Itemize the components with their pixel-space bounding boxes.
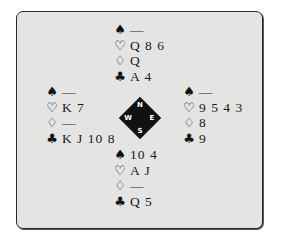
spade-icon: ♠	[183, 84, 196, 100]
west-hearts-row: ♡ K 7	[46, 100, 115, 116]
heart-icon: ♡	[46, 100, 59, 116]
north-clubs: A 4	[130, 69, 152, 85]
club-icon: ♣	[46, 131, 59, 147]
hand-south: ♠ 10 4 ♡ A J ♢ — ♣ Q 5	[114, 147, 158, 209]
heart-icon: ♡	[183, 100, 196, 116]
west-spades: —	[62, 84, 77, 100]
diamond-icon: ♢	[114, 53, 127, 69]
south-clubs-row: ♣ Q 5	[114, 194, 158, 210]
south-diamonds-row: ♢ —	[114, 178, 158, 194]
west-clubs-row: ♣ K J 10 8	[46, 131, 115, 147]
south-diamonds: —	[130, 178, 145, 194]
spade-icon: ♠	[46, 84, 59, 100]
hand-east: ♠ — ♡ 9 5 4 3 ♢ 8 ♣ 9	[183, 84, 243, 146]
north-spades-row: ♠ —	[114, 22, 165, 38]
east-spades: —	[199, 84, 214, 100]
compass-east-label: E	[147, 114, 157, 122]
west-hearts: K 7	[62, 100, 85, 116]
compass-rose: N W E S	[119, 97, 161, 139]
south-spades-row: ♠ 10 4	[114, 147, 158, 163]
west-diamonds-row: ♢ —	[46, 115, 115, 131]
east-clubs-row: ♣ 9	[183, 131, 243, 147]
diamond-icon: ♢	[183, 115, 196, 131]
west-diamonds: —	[62, 115, 77, 131]
north-spades: —	[130, 22, 145, 38]
compass-west-label: W	[123, 114, 133, 122]
east-diamonds-row: ♢ 8	[183, 115, 243, 131]
club-icon: ♣	[114, 194, 127, 210]
south-spades: 10 4	[130, 147, 158, 163]
hand-north: ♠ — ♡ Q 8 6 ♢ Q ♣ A 4	[114, 22, 165, 84]
east-diamonds: 8	[199, 115, 207, 131]
south-hearts: A J	[130, 163, 151, 179]
heart-icon: ♡	[114, 38, 127, 54]
west-spades-row: ♠ —	[46, 84, 115, 100]
compass-south-label: S	[135, 127, 145, 135]
south-hearts-row: ♡ A J	[114, 163, 158, 179]
north-diamonds-row: ♢ Q	[114, 53, 165, 69]
club-icon: ♣	[183, 131, 196, 147]
north-hearts: Q 8 6	[130, 38, 165, 54]
east-hearts-row: ♡ 9 5 4 3	[183, 100, 243, 116]
south-clubs: Q 5	[130, 194, 153, 210]
east-spades-row: ♠ —	[183, 84, 243, 100]
heart-icon: ♡	[114, 163, 127, 179]
north-clubs-row: ♣ A 4	[114, 69, 165, 85]
hand-west: ♠ — ♡ K 7 ♢ — ♣ K J 10 8	[46, 84, 115, 146]
east-clubs: 9	[199, 131, 207, 147]
compass-north-label: N	[135, 101, 145, 109]
north-diamonds: Q	[130, 53, 141, 69]
club-icon: ♣	[114, 69, 127, 85]
diamond-icon: ♢	[46, 115, 59, 131]
diamond-icon: ♢	[114, 178, 127, 194]
spade-icon: ♠	[114, 22, 127, 38]
north-hearts-row: ♡ Q 8 6	[114, 38, 165, 54]
east-hearts: 9 5 4 3	[199, 100, 243, 116]
spade-icon: ♠	[114, 147, 127, 163]
west-clubs: K J 10 8	[62, 131, 115, 147]
